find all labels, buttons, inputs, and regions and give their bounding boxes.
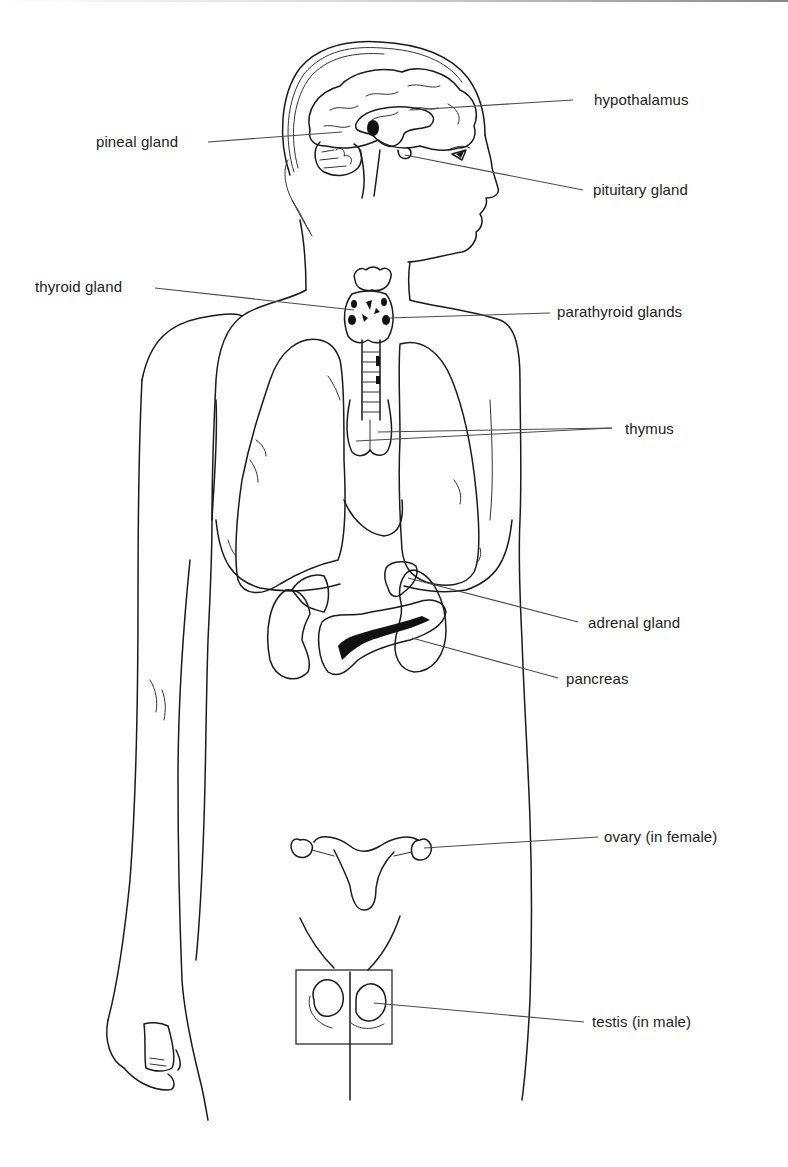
hypothalamus-marker	[367, 120, 379, 136]
leader-parathyroid-glands	[388, 313, 550, 318]
parathyroid-marker	[348, 315, 356, 325]
leader-pituitary-gland	[405, 155, 583, 190]
parathyroid-marker	[382, 315, 390, 325]
label-pituitary-gland: pituitary gland	[593, 181, 688, 199]
label-ovary: ovary (in female)	[604, 828, 717, 846]
label-testis: testis (in male)	[592, 1013, 691, 1031]
label-hypothalamus: hypothalamus	[594, 91, 689, 109]
pancreas	[319, 600, 446, 675]
testes-inset	[296, 970, 392, 1044]
leader-hypothalamus	[412, 100, 573, 110]
label-pineal-gland: pineal gland	[96, 133, 178, 151]
leader-lines	[155, 100, 612, 1022]
trachea	[362, 340, 380, 420]
thymus	[347, 400, 392, 456]
label-pancreas: pancreas	[566, 670, 629, 688]
uterus	[291, 837, 431, 910]
body-outline	[107, 290, 532, 1120]
lungs	[216, 339, 512, 592]
label-thymus: thymus	[625, 420, 674, 438]
leader-ovary	[424, 837, 598, 848]
leader-pineal-gland	[208, 132, 342, 142]
label-adrenal-gland: adrenal gland	[588, 614, 680, 632]
label-parathyroid-glands: parathyroid glands	[557, 303, 682, 321]
leader-pancreas	[412, 638, 558, 678]
brain	[309, 69, 476, 198]
thyroid-gland	[345, 267, 394, 343]
endocrine-diagram	[0, 0, 788, 1167]
label-thyroid-gland: thyroid gland	[35, 278, 122, 296]
adrenal-gland-left	[292, 575, 329, 612]
leader-testis	[374, 1003, 584, 1022]
head-outline	[283, 42, 499, 300]
leader-thyroid-gland	[155, 288, 354, 310]
